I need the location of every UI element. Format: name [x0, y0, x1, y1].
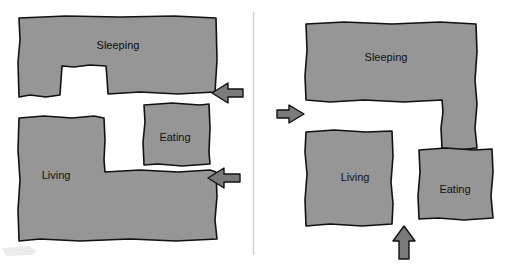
right-room-sleeping-label: Sleeping — [365, 51, 408, 63]
floor-plan-diagram: Sleeping Eating Living Sleeping Living E… — [0, 0, 509, 266]
left-room-sleeping-shape[interactable] — [18, 16, 217, 97]
left-room-sleeping-label: Sleeping — [97, 39, 140, 51]
left-room-eating-label: Eating — [159, 131, 190, 143]
right-room-living-label: Living — [341, 171, 370, 183]
left-room-living-label: Living — [42, 169, 71, 181]
right-room-eating-label: Eating — [439, 183, 470, 195]
